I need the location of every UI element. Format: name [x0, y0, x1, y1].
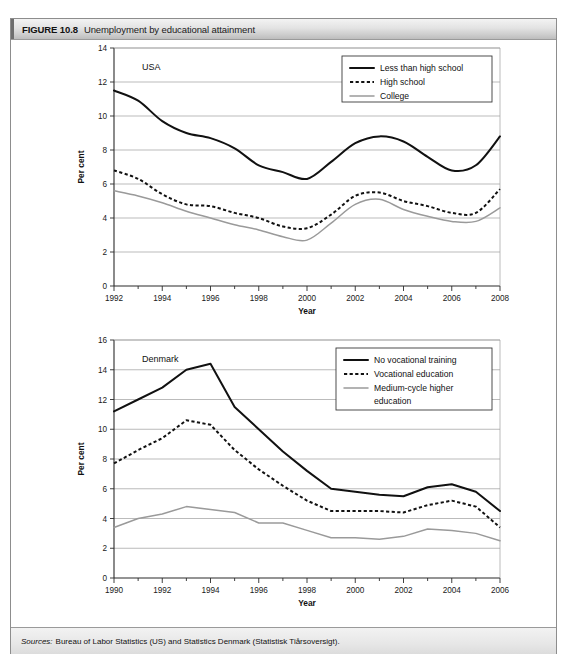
- y-tick-label: 10: [98, 425, 108, 434]
- x-tick-label: 2004: [394, 294, 413, 303]
- figure-number: FIGURE 10.8: [22, 24, 78, 35]
- x-tick-label: 2006: [491, 586, 510, 595]
- figure-container: FIGURE 10.8 Unemployment by educational …: [10, 18, 557, 654]
- figure-footer: Sources: Bureau of Labor Statistics (US)…: [11, 627, 556, 654]
- y-tick-label: 12: [98, 396, 108, 405]
- y-tick-label: 14: [98, 44, 108, 53]
- y-tick-label: 10: [98, 112, 108, 121]
- x-tick-label: 2008: [491, 294, 510, 303]
- series-line-0: [114, 91, 500, 180]
- x-tick-label: 2002: [394, 586, 413, 595]
- x-tick-label: 1992: [105, 294, 124, 303]
- x-tick-label: 2004: [443, 586, 462, 595]
- x-tick-label: 2002: [346, 294, 365, 303]
- y-tick-label: 6: [102, 180, 107, 189]
- y-tick-label: 16: [98, 336, 108, 345]
- y-tick-label: 4: [102, 515, 107, 524]
- legend-label-1: High school: [380, 77, 425, 87]
- legend-label-2: College: [380, 91, 409, 101]
- x-tick-label: 1992: [153, 586, 172, 595]
- y-tick-label: 4: [102, 214, 107, 223]
- legend-label-2: education: [374, 396, 411, 406]
- figure-title: Unemployment by educational attainment: [84, 24, 255, 35]
- y-axis-title: Per cent: [76, 442, 86, 475]
- panel-label: USA: [142, 62, 161, 72]
- chart-panel-denmark: 0246810121416199019921994199619982000200…: [76, 336, 510, 608]
- sources-text: Bureau of Labor Statistics (US) and Stat…: [56, 637, 340, 646]
- chart-panel-usa: 0246810121419921994199619982000200220042…: [76, 44, 510, 316]
- x-tick-label: 1994: [153, 294, 172, 303]
- y-tick-label: 8: [102, 455, 107, 464]
- legend-label-1: Vocational education: [374, 369, 454, 379]
- x-tick-label: 1998: [298, 586, 317, 595]
- y-tick-label: 6: [102, 485, 107, 494]
- x-tick-label: 1996: [250, 586, 269, 595]
- x-tick-label: 2000: [298, 294, 317, 303]
- y-tick-label: 0: [102, 282, 107, 291]
- legend: No vocational trainingVocational educati…: [336, 348, 492, 410]
- y-tick-label: 2: [102, 544, 107, 553]
- figure-header: FIGURE 10.8 Unemployment by educational …: [11, 19, 556, 40]
- y-tick-label: 0: [102, 574, 107, 583]
- y-axis-title: Per cent: [76, 150, 86, 183]
- x-axis-title: Year: [298, 306, 316, 316]
- charts-canvas: 0246810121419921994199619982000200220042…: [11, 40, 556, 626]
- figure-body: 0246810121419921994199619982000200220042…: [11, 40, 556, 627]
- x-tick-label: 1998: [250, 294, 269, 303]
- y-tick-label: 2: [102, 248, 107, 257]
- series-line-2: [114, 507, 500, 541]
- legend: Less than high schoolHigh schoolCollege: [342, 56, 492, 102]
- legend-label-2: Medium-cycle higher: [374, 383, 453, 393]
- y-tick-label: 12: [98, 78, 108, 87]
- panel-label: Denmark: [142, 354, 179, 364]
- legend-label-0: No vocational training: [374, 355, 457, 365]
- legend-label-0: Less than high school: [380, 63, 463, 73]
- x-tick-label: 1990: [105, 586, 124, 595]
- x-tick-label: 2000: [346, 586, 365, 595]
- y-tick-label: 8: [102, 146, 107, 155]
- y-tick-label: 14: [98, 366, 108, 375]
- x-axis-title: Year: [298, 598, 316, 608]
- sources-label: Sources:: [21, 637, 53, 646]
- x-tick-label: 1994: [201, 586, 220, 595]
- x-tick-label: 1996: [201, 294, 220, 303]
- x-tick-label: 2006: [443, 294, 462, 303]
